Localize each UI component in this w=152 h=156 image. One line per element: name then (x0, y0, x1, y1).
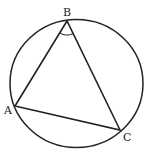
inscribed-triangle-figure: A B C (0, 0, 152, 156)
vertex-label-a: A (3, 104, 13, 117)
vertex-label-c: C (123, 131, 131, 144)
circumscribed-circle (10, 20, 143, 148)
vertex-label-b: B (63, 6, 71, 19)
diagram: A B C (0, 0, 152, 156)
angle-b-arc (60, 33, 73, 35)
